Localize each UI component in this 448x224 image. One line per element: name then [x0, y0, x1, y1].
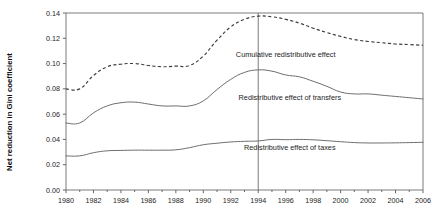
x-tick-label: 1998 [305, 196, 321, 205]
series-annotation-label: Redistributive effect of taxes [244, 143, 336, 152]
series-annotation-label: Cumulative redistributive effect [236, 50, 336, 59]
y-axis-title: Net reduction in Gini coefficient [5, 53, 14, 171]
x-tick-label: 1992 [223, 196, 239, 205]
x-axis-tick-labels: 1980198219841986198819901992199419961998… [58, 196, 431, 205]
y-tick-label: 0.06 [46, 110, 60, 119]
chart-figure: 0.000.020.040.060.080.100.120.14 1980198… [0, 0, 448, 224]
x-tick-label: 2006 [415, 196, 431, 205]
y-axis-title-text: Net reduction in Gini coefficient [5, 53, 14, 171]
x-tick-label: 2004 [388, 196, 404, 205]
y-tick-label: 0.04 [46, 135, 60, 144]
x-tick-label: 1984 [113, 196, 129, 205]
x-tick-label: 2002 [360, 196, 376, 205]
x-tick-label: 1988 [168, 196, 184, 205]
y-tick-label: 0.14 [46, 9, 60, 18]
x-tick-label: 1980 [58, 196, 74, 205]
y-tick-label: 0.12 [46, 34, 60, 43]
series-annotation-label: Redistributive effect of transfers [239, 93, 342, 102]
x-tick-label: 1986 [140, 196, 156, 205]
x-tick-label: 1982 [85, 196, 101, 205]
x-axis-ticks [66, 190, 423, 193]
x-tick-label: 2000 [333, 196, 349, 205]
y-tick-label: 0.10 [46, 59, 60, 68]
y-axis-ticks [63, 13, 66, 190]
x-tick-label: 1994 [250, 196, 266, 205]
y-axis-tick-labels: 0.000.020.040.060.080.100.120.14 [46, 9, 60, 195]
line-chart: 0.000.020.040.060.080.100.120.14 1980198… [0, 0, 448, 224]
x-tick-label: 1990 [195, 196, 211, 205]
y-tick-label: 0.00 [46, 186, 60, 195]
y-tick-label: 0.08 [46, 84, 60, 93]
x-tick-label: 1996 [278, 196, 294, 205]
y-tick-label: 0.02 [46, 160, 60, 169]
